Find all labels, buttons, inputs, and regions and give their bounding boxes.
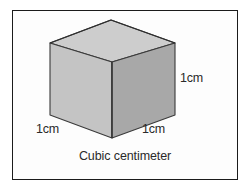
figure-root: 1cm 1cm 1cm Cubic centimeter (0, 0, 250, 191)
dimension-label-width-right: 1cm (142, 123, 165, 136)
figure-caption: Cubic centimeter (12, 150, 238, 163)
dimension-label-depth-left: 1cm (36, 123, 59, 136)
dimension-label-height: 1cm (180, 72, 203, 85)
